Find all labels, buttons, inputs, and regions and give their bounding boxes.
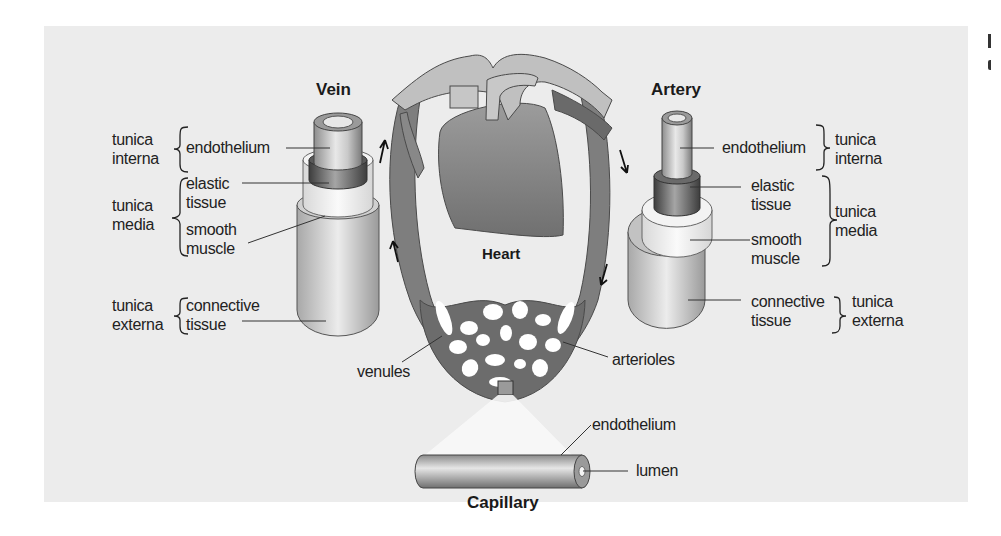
vein-smooth-muscle-label: smoothmuscle: [186, 220, 237, 258]
vein-tunica-media-label: tunicamedia: [112, 196, 154, 234]
arrow-down-icon: [620, 150, 628, 173]
arrow-up-icon: [380, 140, 388, 163]
vein-connective-tissue-label: connectivetissue: [186, 296, 260, 334]
venules-label: venules: [357, 362, 410, 381]
vein-endothelium-label: endothelium: [186, 138, 270, 157]
brace-artery-externa: [832, 297, 846, 333]
artery-tunica-media-label: tunicamedia: [835, 202, 877, 240]
vein-title: Vein: [316, 80, 351, 100]
vein-illustration: [297, 113, 379, 336]
artery-smooth-muscle-label: smoothmuscle: [751, 230, 802, 268]
capillary-zoom-box: [498, 381, 513, 395]
artery-endothelium-label: endothelium: [722, 138, 806, 157]
artery-illustration: [628, 111, 716, 328]
capillary-lumen-label: lumen: [636, 461, 678, 480]
arterioles-label: arterioles: [612, 350, 675, 369]
vein-elastic-tissue-label: elastictissue: [186, 174, 229, 212]
cropped-text-fragment: [988, 34, 991, 48]
artery-tunica-interna-label: tunicainterna: [835, 130, 882, 168]
capillary-title: Capillary: [467, 493, 539, 513]
vein-tunica-externa-label: tunicaexterna: [112, 296, 163, 334]
capillary-illustration: [415, 455, 590, 488]
heart-title: Heart: [482, 245, 520, 262]
zoom-cone: [425, 395, 572, 455]
vein-tunica-interna-label: tunicainterna: [112, 130, 159, 168]
artery-connective-tissue-label: connectivetissue: [751, 292, 825, 330]
artery-elastic-tissue-label: elastictissue: [751, 176, 794, 214]
circulatory-diagram: [0, 0, 1001, 536]
artery-tunica-externa-label: tunicaexterna: [852, 292, 903, 330]
brace-artery-interna: [816, 125, 830, 170]
artery-title: Artery: [651, 80, 701, 100]
heart-circulation: [390, 54, 612, 402]
capillary-endothelium-label: endothelium: [592, 415, 676, 434]
cropped-text-fragment: [988, 60, 991, 70]
